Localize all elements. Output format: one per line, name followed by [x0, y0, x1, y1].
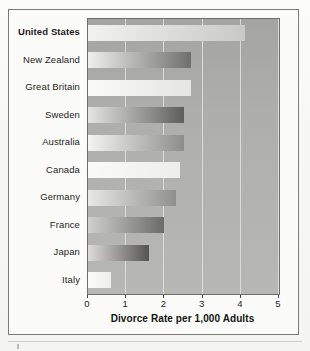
bar-australia[interactable]: [88, 135, 184, 151]
bar-row: [88, 267, 279, 295]
y-axis-label: Australia: [8, 128, 86, 156]
bar-new-zealand[interactable]: [88, 52, 191, 68]
y-axis-label: Germany: [8, 183, 86, 211]
bars-group: [88, 19, 279, 294]
bar-united-states[interactable]: [88, 25, 245, 41]
bar-canada[interactable]: [88, 162, 180, 178]
y-axis-label: Canada: [8, 156, 86, 184]
bar-row: [88, 129, 279, 157]
bar-italy[interactable]: [88, 272, 111, 288]
bar-row: [88, 239, 279, 267]
y-axis-label: Japan: [8, 238, 86, 266]
page-corner-mark: [17, 344, 19, 349]
x-axis-tick-label: 5: [275, 298, 280, 309]
bar-france[interactable]: [88, 217, 164, 233]
y-axis-label: France: [8, 211, 86, 239]
x-axis: 012345: [87, 295, 280, 311]
page-edge-divider: [8, 341, 302, 342]
plot-area: [87, 18, 280, 295]
bar-row: [88, 74, 279, 102]
x-axis-tick-label: 0: [84, 298, 89, 309]
bar-row: [88, 157, 279, 185]
bar-row: [88, 47, 279, 75]
y-axis-category-labels: United StatesNew ZealandGreat BritainSwe…: [8, 18, 86, 293]
y-axis-label: Sweden: [8, 101, 86, 129]
x-axis-title: Divorce Rate per 1,000 Adults: [87, 313, 278, 324]
x-axis-tick-label: 3: [199, 298, 204, 309]
bar-great-britain[interactable]: [88, 80, 191, 96]
bar-row: [88, 184, 279, 212]
x-axis-tick-label: 1: [123, 298, 128, 309]
bar-row: [88, 102, 279, 130]
y-axis-label: United States: [8, 18, 86, 46]
divorce-rate-bar-chart: United StatesNew ZealandGreat BritainSwe…: [8, 9, 299, 335]
y-axis-label: Italy: [8, 266, 86, 294]
x-axis-tick-label: 4: [237, 298, 242, 309]
bar-row: [88, 19, 279, 47]
bar-germany[interactable]: [88, 190, 176, 206]
y-axis-label: New Zealand: [8, 46, 86, 74]
y-axis-label: Great Britain: [8, 73, 86, 101]
bar-sweden[interactable]: [88, 107, 184, 123]
bar-row: [88, 212, 279, 240]
x-axis-tick-label: 2: [161, 298, 166, 309]
bar-japan[interactable]: [88, 245, 149, 261]
